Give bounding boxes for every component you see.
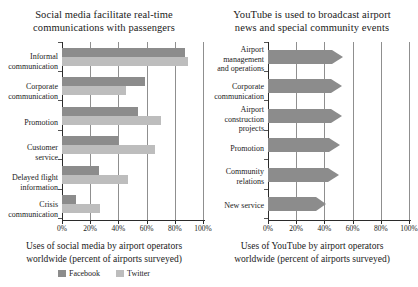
bar-twitter (62, 204, 100, 213)
bar-twitter (62, 145, 155, 154)
arrow-bar-promotion (268, 136, 340, 156)
left-chart-title: Social media facilitate real-time commun… (0, 8, 208, 34)
y-tick (264, 189, 268, 190)
gridline-0-axis (62, 42, 63, 220)
right-category-label-new-service: New service (208, 201, 264, 211)
x-tick-label: 0% (57, 224, 67, 233)
bar-twitter (62, 86, 126, 95)
bar-group-promotion (62, 107, 203, 127)
left-chart-title-line2: communications with passengers (0, 21, 208, 34)
x-tick-label: 0% (263, 224, 273, 233)
gridline-20 (296, 42, 297, 220)
right-category-label-construction: Airport construction projects (208, 105, 264, 134)
gridline-80 (175, 42, 176, 220)
x-tick-label: 40% (318, 224, 332, 233)
arrow-bar-new-service (268, 195, 326, 215)
left-chart-title-line1: Social media facilitate real-time (0, 8, 208, 21)
left-chart-panel: Social media facilitate real-time commun… (0, 0, 208, 287)
gridline-0-axis (268, 42, 269, 220)
gridline-40 (118, 42, 119, 220)
x-tick-label: 20% (83, 224, 97, 233)
gridline-60 (147, 42, 148, 220)
y-tick (58, 218, 62, 219)
legend-swatch-facebook (58, 270, 66, 277)
y-tick (58, 130, 62, 131)
right-category-label-promotion: Promotion (208, 144, 264, 154)
left-category-label-crisis: Crisis communication (2, 200, 58, 219)
bar-facebook (62, 77, 145, 86)
y-tick (264, 218, 268, 219)
gridline-60 (353, 42, 354, 220)
x-tick-label: 60% (346, 224, 360, 233)
gridline-40 (324, 42, 325, 220)
arrow-shape (268, 107, 342, 125)
right-category-label-community-relations: Community relations (208, 167, 264, 186)
arrow-shape (268, 166, 339, 184)
right-axis-caption: Uses of YouTube by airport operators wor… (212, 240, 412, 265)
left-x-tick-labels: 0% 20% 40% 60% 80% 100% (62, 224, 203, 236)
arrow-shape (268, 136, 340, 154)
arrow-bar-airport-construction (268, 107, 341, 127)
bar-group-corporate (62, 77, 203, 97)
bar-facebook (62, 136, 118, 145)
left-plot-area (62, 42, 203, 220)
left-category-label-delayed-flight: Delayed flight information (2, 173, 58, 192)
y-tick (58, 189, 62, 190)
left-category-label-customer-service: Customer service (2, 143, 58, 162)
arrow-bar-airport-management (268, 48, 343, 68)
x-tick-label: 80% (374, 224, 388, 233)
right-chart-panel: YouTube is used to broadcast airport new… (208, 0, 416, 287)
right-chart-title-line1: YouTube is used to broadcast airport (208, 8, 416, 21)
y-tick (264, 130, 268, 131)
y-tick (264, 42, 268, 43)
x-axis-line (62, 220, 205, 221)
bar-group-crisis (62, 195, 203, 215)
gridline-80 (381, 42, 382, 220)
left-axis-caption: Uses of social media by airport operator… (4, 240, 204, 265)
right-chart-title: YouTube is used to broadcast airport new… (208, 8, 416, 34)
right-chart-title-line2: news and special community events (208, 21, 416, 34)
right-category-label-airport-management: Airport management and operations (208, 45, 264, 74)
legend-swatch-twitter (116, 270, 124, 277)
legend-item-twitter: Twitter (116, 269, 150, 278)
x-tick-label: 40% (112, 224, 126, 233)
bar-facebook (62, 166, 99, 175)
bar-twitter (62, 116, 161, 125)
arrow-shape (268, 195, 326, 213)
arrow-bar-corporate-communication (268, 77, 341, 97)
left-category-label-informal: Informal communication (2, 52, 58, 71)
x-tick-label: 60% (140, 224, 154, 233)
y-tick (58, 71, 62, 72)
left-category-label-corporate: Corporate communication (2, 82, 58, 101)
legend-label-twitter: Twitter (127, 269, 150, 278)
y-tick (58, 100, 62, 101)
right-x-tick-labels: 0% 20% 40% 60% 80% 100% (268, 224, 409, 236)
bar-group-customer-service (62, 136, 203, 156)
gridline-20 (90, 42, 91, 220)
bar-twitter (62, 57, 188, 66)
right-category-label-corporate: Corporate communication (208, 82, 264, 101)
bar-facebook (62, 48, 185, 57)
x-tick-label: 80% (168, 224, 182, 233)
left-legend: Facebook Twitter (0, 269, 208, 278)
y-tick (264, 71, 268, 72)
x-tick-label: 100% (400, 224, 418, 233)
right-plot-area (268, 42, 409, 220)
arrow-shape (268, 48, 343, 66)
arrow-bar-community-relations (268, 166, 339, 186)
gridline-100 (409, 42, 410, 220)
bar-group-delayed-flight (62, 166, 203, 186)
legend-label-facebook: Facebook (69, 269, 100, 278)
x-tick-label: 20% (289, 224, 303, 233)
bar-facebook (62, 195, 76, 204)
legend-item-facebook: Facebook (58, 269, 100, 278)
bar-facebook (62, 107, 138, 116)
bar-group-informal (62, 48, 203, 68)
y-tick (264, 159, 268, 160)
arrow-shape (268, 77, 342, 95)
y-tick (58, 159, 62, 160)
y-tick (264, 100, 268, 101)
left-category-label-promotion: Promotion (2, 118, 58, 128)
y-tick (58, 42, 62, 43)
